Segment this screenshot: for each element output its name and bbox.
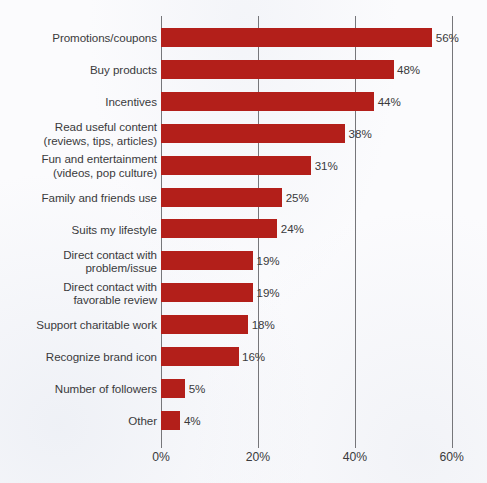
- bar-value-label: 31%: [315, 156, 338, 175]
- category-label: Family and friends use: [7, 191, 157, 204]
- bar-row: Buy products48%: [0, 60, 487, 92]
- bar: [161, 251, 253, 270]
- bar-row: Incentives44%: [0, 92, 487, 124]
- bar: [161, 379, 185, 398]
- bar-row: Read useful content (reviews, tips, arti…: [0, 124, 487, 156]
- bar-chart: Promotions/coupons56%Buy products48%Ince…: [0, 0, 487, 483]
- category-label: Promotions/coupons: [7, 31, 157, 44]
- bar-value-label: 38%: [349, 124, 372, 143]
- bar: [161, 124, 345, 143]
- category-label: Suits my lifestyle: [7, 223, 157, 236]
- bar-row: Promotions/coupons56%: [0, 28, 487, 60]
- bar-row: Support charitable work18%: [0, 315, 487, 347]
- bar: [161, 92, 374, 111]
- bar-row: Other4%: [0, 411, 487, 443]
- bar-value-label: 19%: [257, 251, 280, 270]
- bar-row: Direct contact with problem/issue19%: [0, 251, 487, 283]
- bar-value-label: 24%: [281, 219, 304, 238]
- category-label: Buy products: [7, 63, 157, 76]
- bar-value-label: 56%: [436, 28, 459, 47]
- bar-row: Recognize brand icon16%: [0, 347, 487, 379]
- bar: [161, 156, 311, 175]
- category-label: Support charitable work: [7, 318, 157, 331]
- bar-value-label: 19%: [257, 283, 280, 302]
- bar-value-label: 18%: [252, 315, 275, 334]
- category-label: Recognize brand icon: [7, 350, 157, 363]
- bar-value-label: 25%: [286, 188, 309, 207]
- bar-value-label: 16%: [242, 347, 265, 366]
- bar: [161, 28, 432, 47]
- bar-value-label: 44%: [378, 92, 401, 111]
- category-label: Direct contact with problem/issue: [7, 248, 157, 275]
- bar: [161, 347, 239, 366]
- bar-value-label: 48%: [397, 60, 420, 79]
- x-axis-tick-label: 20%: [228, 450, 288, 464]
- bar: [161, 315, 248, 334]
- bar: [161, 188, 282, 207]
- bar-row: Number of followers5%: [0, 379, 487, 411]
- bar: [161, 283, 253, 302]
- x-axis-tick-label: 40%: [325, 450, 385, 464]
- bar-row: Suits my lifestyle24%: [0, 219, 487, 251]
- bar-value-label: 4%: [184, 411, 201, 430]
- bar: [161, 411, 180, 430]
- bar: [161, 60, 394, 79]
- bar-row: Family and friends use25%: [0, 188, 487, 220]
- x-axis-tick-label: 60%: [422, 450, 482, 464]
- x-axis-tick-label: 0%: [131, 450, 191, 464]
- bar-row: Direct contact with favorable review19%: [0, 283, 487, 315]
- bar-value-label: 5%: [189, 379, 206, 398]
- bar: [161, 219, 277, 238]
- bar-row: Fun and entertainment (videos, pop cultu…: [0, 156, 487, 188]
- category-label: Incentives: [7, 95, 157, 108]
- category-label: Other: [7, 414, 157, 427]
- plot-area: Promotions/coupons56%Buy products48%Ince…: [0, 0, 487, 483]
- category-label: Number of followers: [7, 382, 157, 395]
- category-label: Direct contact with favorable review: [7, 280, 157, 307]
- category-label: Read useful content (reviews, tips, arti…: [7, 120, 157, 147]
- category-label: Fun and entertainment (videos, pop cultu…: [7, 152, 157, 179]
